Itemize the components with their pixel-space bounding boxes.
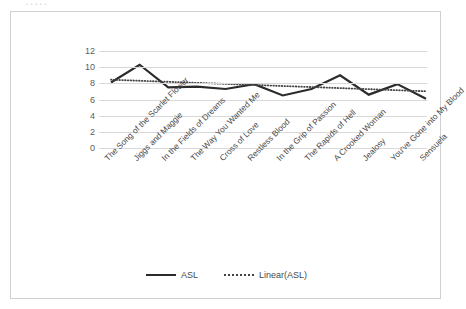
legend-swatch-solid-icon bbox=[146, 274, 176, 276]
gridline-4 bbox=[99, 116, 427, 117]
y-tick-label-12: 12 bbox=[73, 47, 95, 56]
legend-item-linear-asl-[interactable]: Linear(ASL) bbox=[224, 270, 307, 280]
y-tick-label-4: 4 bbox=[73, 111, 95, 120]
gridline-10 bbox=[99, 67, 427, 68]
gridline-2 bbox=[99, 132, 427, 133]
gridline-0 bbox=[99, 148, 427, 149]
chart-legend: ASLLinear(ASL) bbox=[11, 270, 442, 280]
gridline-12 bbox=[99, 51, 427, 52]
legend-swatch-dotted-icon bbox=[224, 274, 254, 276]
gridline-8 bbox=[99, 83, 427, 84]
clipped-page-text: • • • • • bbox=[0, 0, 451, 9]
legend-label: ASL bbox=[181, 270, 198, 280]
chart-frame: 024681012 The Song of the Scarlet Flower… bbox=[10, 11, 441, 299]
y-axis: 024681012 bbox=[73, 12, 95, 300]
gridline-6 bbox=[99, 100, 427, 101]
y-tick-label-6: 6 bbox=[73, 95, 95, 104]
y-tick-label-8: 8 bbox=[73, 79, 95, 88]
plot-area bbox=[99, 12, 427, 300]
y-tick-label-10: 10 bbox=[73, 63, 95, 72]
y-tick-label-2: 2 bbox=[73, 127, 95, 136]
chart-plot-wrapper: 024681012 The Song of the Scarlet Flower… bbox=[11, 12, 442, 300]
legend-label: Linear(ASL) bbox=[259, 270, 307, 280]
series-layer bbox=[99, 12, 427, 300]
legend-item-asl[interactable]: ASL bbox=[146, 270, 198, 280]
y-tick-label-0: 0 bbox=[73, 144, 95, 153]
